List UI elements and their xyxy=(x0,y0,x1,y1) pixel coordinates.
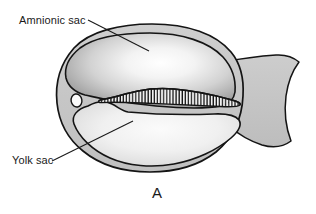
embryo-diagram xyxy=(0,0,316,214)
panel-letter: A xyxy=(152,184,162,201)
figure-panel-a: Amnionic sac Yolk sac A xyxy=(0,0,316,214)
label-yolk-sac: Yolk sac xyxy=(12,154,53,166)
label-amnionic-sac: Amnionic sac xyxy=(19,14,86,26)
